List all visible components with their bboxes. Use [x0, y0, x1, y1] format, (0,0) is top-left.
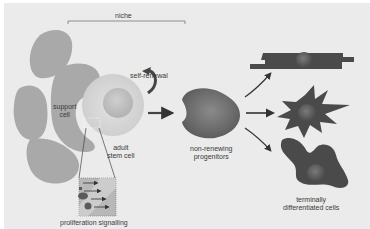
- adult-stem-cell-label: adult stem cell: [107, 144, 135, 160]
- proliferation-inset: [78, 178, 116, 216]
- differentiated-cells-label: terminally differentiated cells: [283, 196, 339, 212]
- progenitors-label: non-renewing progenitors: [190, 145, 232, 161]
- differentiated-cell-amoeboid: [281, 138, 348, 188]
- niche-bracket: [68, 21, 185, 24]
- differentiated-cell-flat: [250, 52, 354, 69]
- progenitor-cell: [182, 88, 240, 138]
- proliferation-signalling-label: proliferation signalling: [60, 219, 128, 227]
- stem-cell-nucleus: [103, 88, 133, 118]
- differentiated-cell-star: [277, 85, 350, 138]
- niche-label: niche: [115, 12, 132, 20]
- support-cell-label: support cell: [53, 103, 76, 119]
- self-renewal-label: self-renewal: [130, 72, 168, 80]
